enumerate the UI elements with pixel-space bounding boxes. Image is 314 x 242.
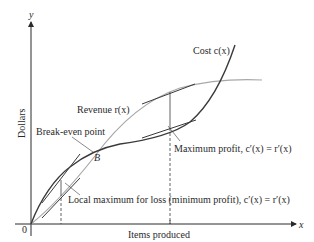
y-axis-label: y [28, 9, 34, 20]
max-profit-label: Maximum profit, c′(x) = r′(x) [174, 143, 292, 155]
tangent-revenue-max-profit [142, 84, 195, 104]
cost-revenue-diagram: y x 0 Dollars Items produced Cost c(x) R… [0, 0, 314, 242]
cost-curve-label: Cost c(x) [193, 45, 230, 57]
break-even-label: Break-even point [36, 126, 105, 137]
x-axis-label: x [298, 219, 304, 230]
origin-label: 0 [22, 224, 27, 235]
revenue-curve-label: Revenue r(x) [77, 104, 129, 116]
x-axis-title: Items produced [128, 229, 190, 240]
local-max-loss-label: Local maximum for loss (minimum profit),… [68, 194, 290, 206]
break-even-leader [72, 137, 93, 152]
tangent-cost-max-profit [142, 120, 196, 138]
y-axis-title: Dollars [16, 108, 27, 138]
point-b-label: B [94, 152, 100, 163]
